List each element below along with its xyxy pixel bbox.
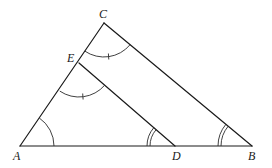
angle-arc-B-outer: [218, 124, 226, 146]
angle-arc-C: [85, 45, 130, 57]
segment-AC: [20, 23, 104, 146]
geometry-diagram: C E A D B: [0, 0, 272, 168]
segment-ED: [79, 63, 175, 146]
angle-arc-E: [60, 85, 105, 97]
point-label-B: B: [248, 149, 256, 163]
point-label-C: C: [99, 7, 108, 21]
point-label-A: A: [12, 149, 21, 163]
point-label-E: E: [66, 51, 75, 65]
angle-arc-A: [39, 118, 54, 146]
point-label-D: D: [171, 149, 181, 163]
segment-CB: [104, 23, 252, 146]
